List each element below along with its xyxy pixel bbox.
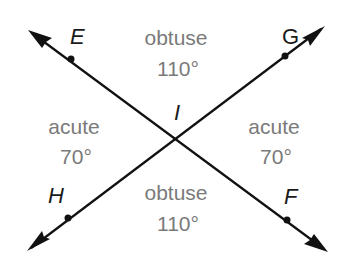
label-e: E [70, 24, 85, 49]
point-g-dot [282, 53, 289, 60]
point-e-dot [68, 56, 75, 63]
angle-right-measure: 70° [260, 145, 292, 168]
angle-left-type: acute [48, 115, 99, 138]
arrow-g-icon [302, 26, 325, 46]
angle-bottom-type: obtuse [144, 181, 207, 204]
label-g: G [282, 24, 299, 49]
intersecting-lines-diagram: E G I H F obtuse 110° acute 70° acute 70… [0, 0, 346, 272]
point-h-dot [65, 215, 72, 222]
angle-bottom-measure: 110° [157, 212, 199, 235]
angle-top-type: obtuse [144, 26, 207, 49]
angle-left-measure: 70° [60, 145, 92, 168]
arrow-h-icon [27, 231, 50, 251]
angle-top-measure: 110° [157, 57, 199, 80]
label-i: I [174, 100, 180, 125]
label-f: F [284, 184, 299, 209]
label-h: H [48, 183, 64, 208]
angle-right-type: acute [248, 115, 299, 138]
point-f-dot [284, 217, 291, 224]
